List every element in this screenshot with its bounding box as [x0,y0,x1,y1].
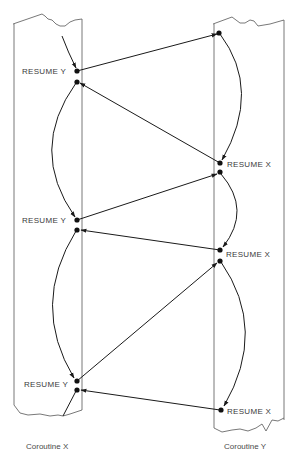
coroutine-y-bottom-edge [214,418,284,432]
dot-y-resume-1 [217,160,222,165]
label-x-resume-1: RESUME Y [22,67,66,76]
label-y-resume-2: RESUME X [226,250,270,259]
dot-x-resume-1 [74,68,79,73]
dot-y-resume-2 [217,247,222,252]
resume-points [74,30,223,412]
y-body-curve-1 [220,34,242,160]
coroutine-y-box [213,17,284,432]
dot-x-continue-3 [74,387,79,392]
transfer-x1-to-y [77,34,217,71]
x-body-curve-1 [52,83,76,217]
label-y-resume-3: RESUME X [227,407,271,416]
dot-y-resume-3 [218,407,223,412]
dot-y-start [216,30,221,35]
transfer-x3-to-y [77,263,217,381]
dot-y-continue-1 [217,169,222,174]
caption-coroutine-x: Coroutine X [26,442,68,451]
dot-y-continue-2 [217,258,222,263]
dot-x-continue-2 [74,227,79,232]
label-x-resume-3: RESUME Y [24,380,68,389]
transfer-y2-to-x [81,230,220,250]
coroutine-x-top-edge [13,14,82,26]
dot-x-continue-1 [74,79,79,84]
y-body-curve-3 [221,262,245,406]
label-x-resume-2: RESUME Y [22,216,66,225]
transfer-x2-to-y [77,174,217,220]
label-y-resume-1: RESUME X [227,160,271,169]
dot-x-resume-3 [74,378,79,383]
dot-x-resume-2 [74,217,79,222]
control-flow-lines [52,34,246,416]
transfer-y1-to-x [80,83,220,163]
y-body-curve-2 [221,174,237,247]
x-entry-curve [62,36,76,68]
coroutine-y-top-edge [213,17,284,26]
transfer-y3-to-x [81,390,220,410]
x-body-curve-2 [52,231,76,378]
coroutine-x-bottom-edge [14,405,82,416]
caption-coroutine-y: Coroutine Y [224,442,266,451]
